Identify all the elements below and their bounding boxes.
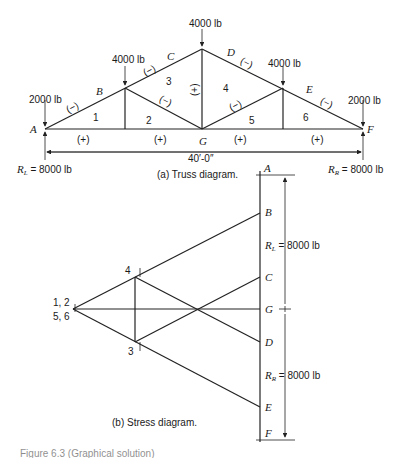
load-label-right: 2000 lb [348,95,381,106]
joint-g: G [199,135,207,147]
pole-label-top: 1, 2 [53,297,70,308]
sign-bottom-4: (+) [311,134,324,145]
point-4-label: 4 [125,265,131,276]
figure-caption: Figure 6.3 (Graphical solution) [20,448,155,458]
stress-f: F [264,427,272,439]
truss-figure: 2000 lb 4000 lb 4000 lb 4000 lb 2000 lb … [0,0,406,458]
sign-bottom-1: (+) [77,134,90,145]
joint-e: E [305,83,313,95]
stress-e: E [264,401,272,413]
panel-5: 5 [249,115,255,126]
sign-vertical-center: (+) [189,84,200,97]
panel-6: 6 [303,112,309,123]
ray-e [73,309,260,407]
panel-2: 2 [146,115,152,126]
stress-a: A [263,162,271,174]
pole-label-bottom: 5, 6 [53,311,70,322]
stress-caption: (b) Stress diagram. [112,417,197,428]
sign-diag-right: (−) [227,98,243,113]
load-label-b: 4000 lb [112,54,145,65]
load-label-apex: 4000 lb [189,18,222,29]
rl-label: RL = 8000 lb [264,239,320,253]
stress-b: B [265,206,272,218]
panel-4: 4 [223,83,229,94]
ray-b [73,213,260,309]
stress-d: D [264,336,273,348]
sign-bottom-2: (+) [154,134,167,145]
joint-d: D [226,46,235,58]
joint-c: C [167,50,175,62]
rr-label: RR = 8000 lb [264,369,321,383]
stress-diagram: A B C G D E F 1, 2 5, 6 4 3 RL = 8000 lb… [53,162,321,442]
reaction-right-label: RR = 8000 lb [327,163,384,177]
stress-c: C [265,271,273,283]
load-label-d: 4000 lb [268,58,301,69]
panel-3: 3 [166,76,172,87]
truss-diagram: 2000 lb 4000 lb 4000 lb 4000 lb 2000 lb … [16,18,384,180]
joint-a: A [29,123,37,135]
sign-bottom-3: (+) [234,134,247,145]
joint-f: F [366,123,374,135]
panel-1: 1 [93,112,99,123]
truss-caption: (a) Truss diagram. [157,169,238,180]
reaction-left-label: RL = 8000 lb [16,163,72,177]
diagonal-right [202,88,283,129]
stress-g: G [265,303,273,315]
point-3-label: 3 [128,346,134,357]
joint-b: B [96,85,103,97]
span-label: 40′-0″ [188,153,214,164]
load-label-left: 2000 lb [29,94,62,105]
